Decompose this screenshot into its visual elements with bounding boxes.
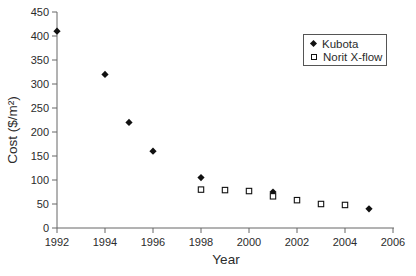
legend-label-norit: Norit X-flow bbox=[323, 51, 382, 63]
y-tick-label: 450 bbox=[31, 6, 49, 18]
x-tick-label: 1992 bbox=[45, 236, 69, 248]
filled-diamond-icon bbox=[310, 40, 317, 47]
y-axis-title: Cost ($/m²) bbox=[5, 22, 21, 238]
y-tick-label: 300 bbox=[31, 78, 49, 90]
data-point-kubota bbox=[197, 174, 204, 181]
y-tick-label: 200 bbox=[31, 126, 49, 138]
y-tick-label: 350 bbox=[31, 54, 49, 66]
data-point-kubota bbox=[365, 205, 372, 212]
data-point-norit-x-flow bbox=[270, 194, 275, 199]
data-point-kubota bbox=[125, 119, 132, 126]
x-tick-label: 1998 bbox=[189, 236, 213, 248]
y-tick-label: 100 bbox=[31, 174, 49, 186]
data-point-norit-x-flow bbox=[246, 188, 251, 193]
y-tick-label: 0 bbox=[43, 222, 49, 234]
legend-label-kubota: Kubota bbox=[322, 38, 358, 50]
open-square-icon bbox=[311, 54, 317, 60]
x-tick-label: 2006 bbox=[381, 236, 405, 248]
x-axis-title: Year bbox=[212, 252, 239, 267]
data-point-kubota bbox=[53, 28, 60, 35]
data-point-kubota bbox=[101, 71, 108, 78]
y-tick-label: 50 bbox=[37, 198, 49, 210]
data-point-norit-x-flow bbox=[198, 187, 203, 192]
data-point-norit-x-flow bbox=[294, 197, 299, 202]
x-tick-label: 1996 bbox=[141, 236, 165, 248]
x-tick-label: 2002 bbox=[285, 236, 309, 248]
legend-item-kubota: Kubota bbox=[311, 38, 386, 50]
data-point-norit-x-flow bbox=[222, 187, 227, 192]
y-tick-label: 400 bbox=[31, 30, 49, 42]
cost-vs-year-chart: 0501001502002503003504004501992199419961… bbox=[0, 0, 416, 276]
data-point-kubota bbox=[149, 148, 156, 155]
x-tick-label: 1994 bbox=[93, 236, 117, 248]
data-point-norit-x-flow bbox=[342, 202, 347, 207]
x-tick-label: 2000 bbox=[237, 236, 261, 248]
legend: Kubota Norit X-flow bbox=[303, 34, 387, 66]
data-point-norit-x-flow bbox=[318, 201, 323, 206]
y-tick-label: 150 bbox=[31, 150, 49, 162]
legend-item-norit: Norit X-flow bbox=[311, 51, 386, 63]
x-tick-label: 2004 bbox=[333, 236, 357, 248]
y-tick-label: 250 bbox=[31, 102, 49, 114]
